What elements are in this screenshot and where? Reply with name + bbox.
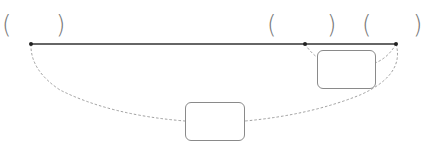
middle-pair-open-paren: ( (267, 13, 276, 37)
right-endpoint-dot (394, 42, 398, 46)
right-pair-open-paren: ( (362, 13, 371, 37)
small-brace-right (375, 44, 396, 63)
right-pair-close-paren: ) (413, 13, 422, 37)
left-endpoint-dot (29, 42, 33, 46)
middle-point-dot (303, 42, 307, 46)
large-answer-box[interactable] (185, 102, 245, 141)
left-pair-close-paren: ) (56, 13, 65, 37)
small-answer-box[interactable] (317, 50, 376, 89)
left-pair-open-paren: ( (2, 13, 11, 37)
large-brace-left (31, 44, 185, 121)
middle-pair-close-paren: ) (327, 13, 336, 37)
